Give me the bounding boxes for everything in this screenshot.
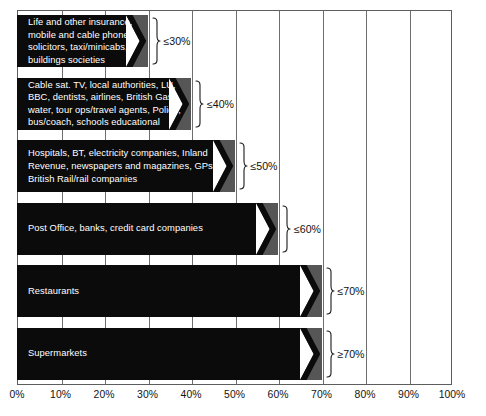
bars-layer: Life and other insurance, mobile and cab… — [17, 10, 452, 385]
x-tick-label: 60% — [268, 389, 289, 400]
curly-brace-icon — [326, 330, 335, 378]
bar-row: Restaurants — [17, 265, 452, 317]
bar-row: Hospitals, BT, electricity companies, In… — [17, 140, 452, 192]
bar-annotation-text: ≤70% — [338, 285, 365, 297]
bar-annotation: ≤40% — [195, 78, 234, 130]
x-tick-label: 40% — [181, 389, 202, 400]
bar-body — [17, 203, 256, 255]
bar-annotation: ≤60% — [282, 203, 321, 255]
curly-brace-icon — [326, 267, 335, 315]
bar-end-wedge — [169, 78, 191, 130]
bar-body — [17, 328, 300, 380]
bar-annotation-text: ≥70% — [338, 348, 365, 360]
bar-body — [17, 15, 126, 67]
x-tick-label: 0% — [9, 389, 24, 400]
bar-annotation-text: ≤30% — [164, 35, 191, 47]
horizontal-bar-chart: Life and other insurance, mobile and cab… — [0, 0, 486, 416]
x-tick-label: 70% — [311, 389, 332, 400]
bar-annotation-text: ≤50% — [251, 160, 278, 172]
bar-annotation: ≤30% — [152, 15, 191, 67]
bar-end-wedge — [300, 328, 322, 380]
x-tick-label: 20% — [94, 389, 115, 400]
bar-end-wedge — [126, 15, 148, 67]
bar-body — [17, 78, 169, 130]
bar-row: Post Office, banks, credit card companie… — [17, 203, 452, 255]
bar-end-wedge — [256, 203, 278, 255]
bar-annotation: ≥70% — [326, 328, 365, 380]
bar-annotation-text: ≤60% — [294, 223, 321, 235]
curly-brace-icon — [152, 17, 161, 65]
bar-row: Supermarkets — [17, 328, 452, 380]
x-tick-label: 50% — [224, 389, 245, 400]
bar-annotation: ≤70% — [326, 265, 365, 317]
curly-brace-icon — [282, 205, 291, 253]
bar-end-wedge — [213, 140, 235, 192]
x-tick-label: 80% — [355, 389, 376, 400]
x-tick-label: 10% — [50, 389, 71, 400]
curly-brace-icon — [239, 142, 248, 190]
bar-annotation: ≤50% — [239, 140, 278, 192]
curly-brace-icon — [195, 80, 204, 128]
bar-body — [17, 140, 213, 192]
x-tick-label: 100% — [439, 389, 466, 400]
x-axis-tick-labels: 0%10%20%30%40%50%60%70%80%90%100% — [17, 389, 452, 409]
x-tick-label: 30% — [137, 389, 158, 400]
bar-body — [17, 265, 300, 317]
bar-row: Life and other insurance, mobile and cab… — [17, 15, 452, 67]
x-tick-label: 90% — [398, 389, 419, 400]
bar-row: Cable sat. TV, local authorities, LU, BB… — [17, 78, 452, 130]
bar-end-wedge — [300, 265, 322, 317]
bar-annotation-text: ≤40% — [207, 98, 234, 110]
